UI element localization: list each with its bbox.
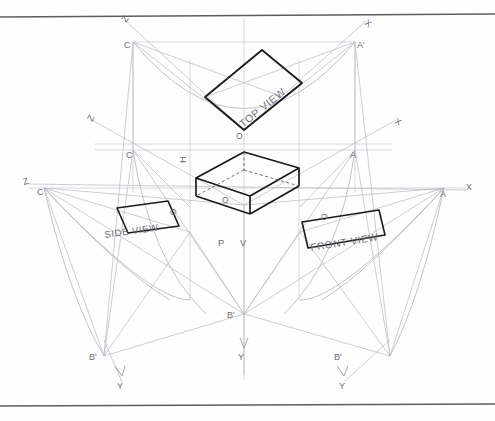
front-view-label: FRONT VIEW: [310, 231, 379, 253]
side-view-label: SIDE VIEW: [104, 222, 160, 240]
drawing-sheet: TOP VIEW FRONT VIEW SIDE VIEW H P V Z X …: [0, 0, 495, 421]
axis-label-z-upper-left: Z: [119, 13, 131, 24]
point-label-o-top: O: [236, 131, 243, 141]
point-label-o-side: O: [170, 207, 177, 217]
axis-arrowheads: [115, 338, 348, 376]
axis-label-y-left: Y: [117, 381, 123, 391]
axis-label-y-right: Y: [339, 381, 345, 391]
point-label-c-top: C: [124, 40, 131, 50]
isometric-box-hidden-edges: [196, 152, 299, 196]
point-label-a-far: A: [440, 189, 446, 199]
construction-guides: [28, 18, 466, 380]
axis-label-x-far-right: X: [466, 182, 472, 192]
point-label-b-left: B': [89, 352, 97, 362]
construction-rays: [28, 21, 466, 382]
point-label-b-center: B': [227, 310, 235, 320]
plane-label-h: H: [177, 156, 188, 163]
point-label-a-top: A': [357, 40, 365, 50]
plane-label-d: P: [218, 237, 224, 248]
sheet-border: [0, 14, 495, 406]
plane-label-v: V: [240, 237, 247, 248]
axis-label-x-upper-right: X: [363, 17, 374, 29]
point-label-a-mid: A: [350, 150, 356, 160]
axis-label-z-far-left: Z: [22, 176, 31, 187]
point-label-b-right: B': [334, 352, 342, 362]
axis-label-x-mid-right: X: [393, 116, 403, 128]
point-label-o-center: O: [222, 195, 229, 205]
technical-drawing-canvas: TOP VIEW FRONT VIEW SIDE VIEW H P V Z X …: [0, 0, 495, 421]
axis-label-y-center: Y: [238, 352, 244, 362]
point-label-c-far: C: [37, 187, 44, 197]
point-label-c-mid: C: [126, 150, 133, 160]
point-label-o-front: O: [321, 212, 328, 222]
